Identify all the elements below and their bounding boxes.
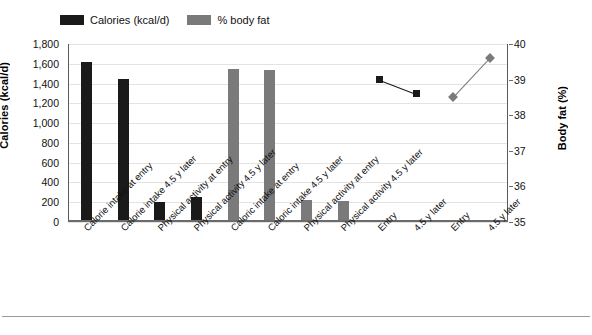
y-tick-label-right: 38 bbox=[514, 110, 526, 121]
y-axis-right-title: Body fat (%) bbox=[556, 86, 572, 150]
plot-background bbox=[68, 44, 508, 222]
y-tick-mark-right bbox=[509, 186, 513, 187]
axis-line-right bbox=[507, 44, 508, 222]
y-tick-label-left: 1,600 bbox=[33, 59, 59, 70]
plot-area bbox=[68, 44, 508, 222]
y-tick-label-left: 400 bbox=[41, 177, 59, 188]
legend-label-body-fat: % body fat bbox=[217, 15, 269, 26]
gridline bbox=[68, 163, 508, 164]
y-tick-mark-right bbox=[509, 44, 513, 45]
gridline bbox=[68, 44, 508, 45]
legend-swatch-calories bbox=[60, 15, 84, 25]
y-tick-label-left: 200 bbox=[41, 197, 59, 208]
y-axis-right-ticks: 353637383940 bbox=[514, 44, 550, 222]
footer-divider bbox=[2, 316, 590, 317]
legend-item-body-fat: % body fat bbox=[187, 15, 269, 26]
gridline bbox=[68, 64, 508, 65]
data-point-marker bbox=[376, 76, 383, 83]
y-tick-mark-right bbox=[509, 151, 513, 152]
y-tick-label-right: 39 bbox=[514, 74, 526, 85]
y-tick-label-left: 800 bbox=[41, 138, 59, 149]
y-tick-label-right: 40 bbox=[514, 39, 526, 50]
chart-figure: Calories (kcal/d) % body fat Calories (k… bbox=[0, 0, 592, 335]
y-tick-mark-right bbox=[509, 80, 513, 81]
axis-line-left bbox=[68, 44, 69, 222]
gridline bbox=[68, 123, 508, 124]
gridline bbox=[68, 143, 508, 144]
gridline bbox=[68, 84, 508, 85]
y-tick-label-right: 36 bbox=[514, 181, 526, 192]
data-point-marker bbox=[413, 90, 420, 97]
x-axis-category-labels: Calorie intake at entryCalorie intake 4.… bbox=[0, 224, 592, 306]
y-tick-label-left: 600 bbox=[41, 157, 59, 168]
y-tick-mark-right bbox=[509, 115, 513, 116]
y-tick-mark-right bbox=[509, 222, 513, 223]
chart-legend: Calories (kcal/d) % body fat bbox=[60, 13, 269, 27]
y-tick-label-right: 37 bbox=[514, 146, 526, 157]
bar bbox=[81, 62, 92, 222]
legend-item-calories: Calories (kcal/d) bbox=[60, 15, 169, 26]
legend-label-calories: Calories (kcal/d) bbox=[90, 15, 169, 26]
y-tick-label-left: 1,400 bbox=[33, 78, 59, 89]
y-tick-label-left: 1,200 bbox=[33, 98, 59, 109]
footer-caption-sliver bbox=[6, 327, 586, 335]
gridline bbox=[68, 103, 508, 104]
y-tick-label-left: 1,800 bbox=[33, 39, 59, 50]
legend-swatch-body-fat bbox=[187, 15, 211, 25]
y-tick-label-left: 1,000 bbox=[33, 118, 59, 129]
y-axis-left-ticks: 02004006008001,0001,2001,4001,6001,800 bbox=[0, 44, 64, 222]
